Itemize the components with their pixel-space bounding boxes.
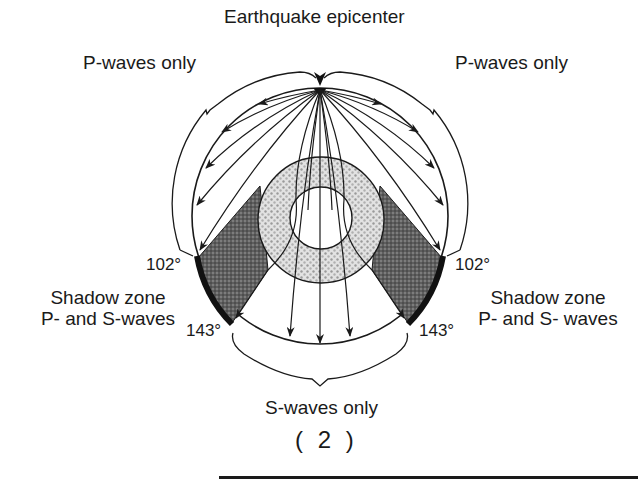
s-waves-only-label: S-waves only <box>265 397 378 418</box>
epicenter-label: Earthquake epicenter <box>224 6 405 27</box>
bottom-rule <box>219 476 638 479</box>
p-waves-only-right-label: P-waves only <box>455 52 568 73</box>
shadow-zone-left-label: Shadow zone P- and S-waves <box>28 287 188 329</box>
angle-102-left: 102° <box>146 256 181 274</box>
p-waves-only-left-label: P-waves only <box>83 52 196 73</box>
figure-number: ( 2 ) <box>295 426 358 454</box>
shadow-zone-right-label: Shadow zone P- and S- waves <box>463 287 633 329</box>
inner-core <box>290 187 352 249</box>
angle-102-right: 102° <box>455 256 490 274</box>
angle-143-left: 143° <box>186 322 221 340</box>
angle-143-right: 143° <box>419 322 454 340</box>
